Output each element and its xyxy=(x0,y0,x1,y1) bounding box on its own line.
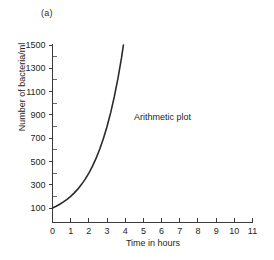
x-tick-label: 9 xyxy=(214,226,219,236)
y-tick-label: 1500 xyxy=(25,40,45,50)
x-tick-label: 4 xyxy=(123,226,128,236)
y-tick-label: 1100 xyxy=(26,87,45,97)
x-tick-label: 6 xyxy=(159,226,164,236)
y-tick-label: 700 xyxy=(30,133,45,143)
x-tick-label: 5 xyxy=(141,226,146,236)
figure-panel: (a) 100300500700900110013001500 01234567… xyxy=(0,0,274,260)
x-axis-ticks xyxy=(53,218,253,223)
x-tick-label: 1 xyxy=(68,226,73,236)
arithmetic-growth-chart: 100300500700900110013001500 012345678910… xyxy=(0,0,274,260)
y-axis-tick-labels: 100300500700900110013001500 xyxy=(25,40,45,213)
x-axis-title: Time in hours xyxy=(53,238,253,248)
y-tick-label: 900 xyxy=(30,110,45,120)
x-tick-label: 8 xyxy=(195,226,200,236)
x-tick-label: 10 xyxy=(229,226,239,236)
x-tick-label: 2 xyxy=(86,226,91,236)
y-tick-label: 100 xyxy=(30,203,45,213)
data-series-group xyxy=(53,45,124,208)
arithmetic-curve xyxy=(53,45,124,208)
x-tick-label: 0 xyxy=(50,226,55,236)
x-tick-label: 3 xyxy=(105,226,110,236)
y-tick-label: 300 xyxy=(30,180,45,190)
y-tick-label: 500 xyxy=(30,157,45,167)
x-axis: 01234567891011 xyxy=(50,218,257,237)
y-tick-label: 1300 xyxy=(25,63,45,73)
curve-annotation: Arithmetic plot xyxy=(134,112,191,122)
x-axis-tick-labels: 01234567891011 xyxy=(50,226,257,236)
x-tick-label: 7 xyxy=(177,226,182,236)
y-axis-title: Number of bacteria/ml xyxy=(17,2,27,172)
y-axis: 100300500700900110013001500 xyxy=(25,40,56,222)
x-tick-label: 11 xyxy=(248,226,257,236)
